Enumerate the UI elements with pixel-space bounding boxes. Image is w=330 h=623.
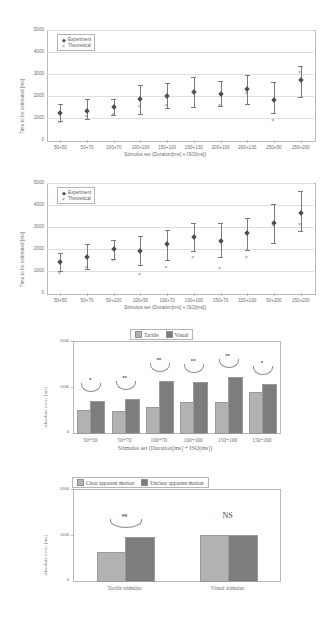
theoretical-marker: × [271,223,274,228]
y-tick-label: 5000 [25,27,44,32]
error-bar [87,244,88,269]
bar-series-1 [228,535,258,582]
error-bar-cap-bottom [85,119,90,120]
x-tick [301,293,302,296]
experiment-marker [84,109,90,115]
theoretical-marker: × [165,265,168,270]
error-bar-cap-bottom [298,231,303,232]
x-tick [167,293,168,296]
x-tick-label: Visual stimulus [176,585,279,591]
gridline [47,183,314,184]
error-bar-cap-top [298,191,303,192]
experiment-marker-icon: ◆ [61,37,66,43]
gridline [47,249,314,250]
x-tick [60,140,61,143]
error-bar-cap-top [218,81,223,82]
x-tick [247,293,248,296]
bar-series-1 [125,399,140,434]
x-tick-label: 200+100 [205,145,237,150]
error-bar-cap-bottom [191,251,196,252]
error-bar [87,99,88,119]
error-bar-cap-top [191,223,196,224]
significance-label: * [80,377,100,383]
x-tick-label: 50+70 [71,145,103,150]
error-bar-cap-bottom [165,108,170,109]
experiment-marker [138,96,144,102]
x-tick [221,140,222,143]
y-tick-label: 4000 [25,202,44,207]
legend-entry: ◆Experiment [61,37,91,43]
x-tick-label: 150+100 [231,298,263,303]
error-bar [247,75,248,104]
error-bar [274,82,275,113]
panel-chart1: 010002000300040005000Time to be estimate… [0,0,330,623]
theoretical-marker: × [165,103,168,108]
error-bar-cap-top [245,218,250,219]
error-bar-cap-bottom [245,250,250,251]
bar-series-1 [159,381,174,434]
significance-bracket [253,366,273,375]
x-tick [87,293,88,296]
bar-series-0 [97,552,127,582]
error-bar [194,223,195,252]
x-tick [274,293,275,296]
error-bar-cap-top [191,77,196,78]
experiment-marker [58,110,64,116]
theoretical-marker: × [271,118,274,123]
theoretical-marker: × [245,255,248,260]
x-axis-title: Stimulus set (Duration[ms] + ISO[ms]) [0,445,330,451]
theoretical-marker: × [111,112,114,117]
theoretical-marker: × [191,91,194,96]
gridline [47,96,314,97]
error-bar-cap-bottom [85,269,90,270]
legend-label: Tactile [144,332,159,338]
error-bar-cap-bottom [245,104,250,105]
legend-swatch [77,479,84,486]
panel-chart2: 010002000300040005000Time to be estimate… [0,0,330,623]
x-tick [114,293,115,296]
theoretical-marker: × [245,91,248,96]
gridline [47,74,314,75]
y-tick-label: 3000 [25,224,44,229]
gridline [47,52,314,53]
error-bar-cap-top [85,99,90,100]
legend-entry: ×Theoretical [61,43,91,49]
legend-swatch [135,331,142,338]
bar-series-1 [90,401,105,434]
x-tick [114,140,115,143]
x-tick [167,140,168,143]
experiment-marker [218,91,224,97]
bar-series-1 [262,384,277,434]
x-tick-label: 50+50 [44,145,76,150]
error-bar-cap-bottom [191,107,196,108]
significance-label: ** [218,353,238,359]
x-tick-label: 150+100 [210,437,244,443]
y-tick-label: 1000 [25,115,44,120]
x-tick-label: 150+70 [205,298,237,303]
panel-chart4: 010002000Absolute error [ms]Tactile stim… [0,0,330,623]
significance-label: ** [115,375,135,381]
error-bar-cap-top [58,253,63,254]
error-bar-cap-top [58,104,63,105]
y-tick-label lblserif: 2000 [49,338,69,343]
legend-entry: Visual [166,331,189,338]
x-tick-label: 50+70 [71,298,103,303]
y-tick-label: 4000 [25,49,44,54]
error-bar-cap-top [111,240,116,241]
x-tick-label: 150+200 [245,437,279,443]
error-bar-cap-bottom [138,114,143,115]
error-bar-cap-bottom [218,257,223,258]
y-tick [71,387,74,388]
error-bar-cap-bottom [138,265,143,266]
x-tick-label: 100+100 [124,145,156,150]
error-bar [221,81,222,106]
y-tick-label lblserif: 2000 [49,486,69,491]
significance-bracket [150,363,170,372]
y-tick-label lblserif: 0 [49,577,69,582]
x-tick-label: 100+50 [124,298,156,303]
experiment-marker [218,238,224,244]
y-axis-title: Time to be estimated [ms] [20,79,25,134]
x-tick-label: Tactile stimulus [73,585,176,591]
error-bar-cap-bottom [165,260,170,261]
error-bar-cap-bottom [218,106,223,107]
